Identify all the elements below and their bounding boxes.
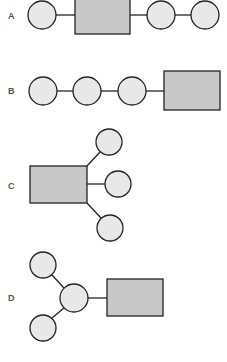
- edge-d3-d2: [52, 308, 64, 318]
- panel-label: B: [8, 86, 15, 96]
- panel-label: A: [8, 11, 15, 21]
- node-circle: [191, 1, 219, 29]
- panel-d: D: [8, 252, 163, 341]
- node-circle: [147, 1, 175, 29]
- panel-label: C: [8, 181, 15, 191]
- panel-b: B: [8, 71, 220, 110]
- node-rect: [164, 71, 220, 110]
- node-rect: [30, 166, 87, 203]
- node-circle: [28, 1, 56, 29]
- node-circle: [97, 215, 123, 241]
- edge-c1-c2: [87, 152, 100, 166]
- node-circle: [73, 77, 101, 105]
- node-circle: [30, 252, 56, 278]
- edge-c1-c4: [87, 203, 101, 218]
- edge-d1-d2: [52, 275, 64, 288]
- node-circle: [105, 171, 131, 197]
- node-circle: [29, 77, 57, 105]
- node-circle: [96, 129, 122, 155]
- network-topology-diagram: A B C D: [0, 0, 227, 362]
- node-circle: [118, 77, 146, 105]
- panel-label: D: [8, 293, 15, 303]
- node-rect: [107, 279, 163, 316]
- node-circle: [60, 284, 88, 312]
- panel-c: C: [8, 129, 131, 241]
- panel-a: A: [8, 0, 219, 34]
- node-circle: [30, 315, 56, 341]
- node-rect: [75, 0, 130, 34]
